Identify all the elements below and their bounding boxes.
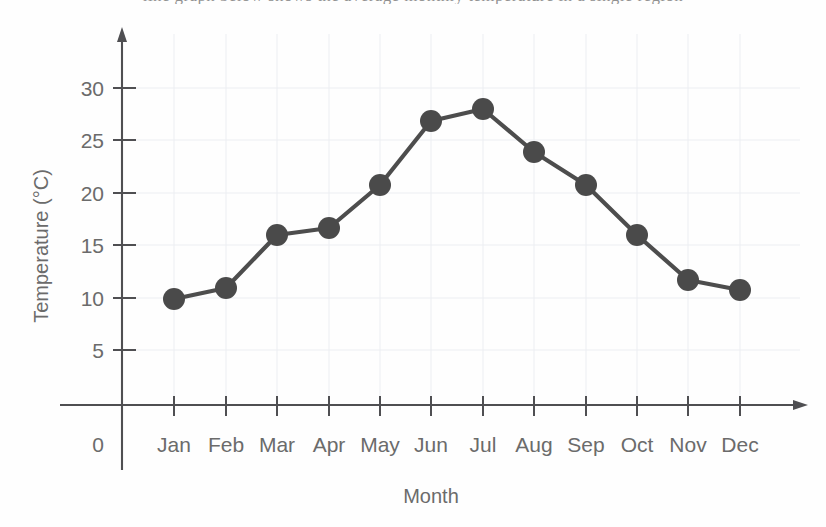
x-tick-label-aug: Aug [515, 433, 552, 456]
data-point-feb[interactable] [215, 277, 237, 299]
horizontal-gridlines [122, 88, 800, 350]
x-tick-label-jul: Jul [470, 433, 497, 456]
line-chart: 30 25 20 15 10 5 0 Jan Feb Mar Apr May J… [0, 0, 826, 527]
y-tick-label-25: 25 [81, 129, 104, 152]
x-axis-title: Month [403, 485, 459, 507]
y-axis-title: Temperature (°C) [30, 169, 52, 323]
x-tick-label-jan: Jan [157, 433, 191, 456]
data-point-may[interactable] [369, 174, 391, 196]
data-point-jul[interactable] [472, 98, 494, 120]
x-tick-label-oct: Oct [621, 433, 654, 456]
x-tick-label-dec: Dec [721, 433, 758, 456]
x-tick-label-apr: Apr [313, 433, 346, 456]
chart-svg: 30 25 20 15 10 5 0 Jan Feb Mar Apr May J… [0, 0, 826, 527]
x-tick-label-mar: Mar [259, 433, 295, 456]
data-point-aug[interactable] [523, 141, 545, 163]
chart-page: line graph below shows the average month… [0, 0, 826, 527]
data-point-dec[interactable] [729, 279, 751, 301]
x-axis-arrow-icon [793, 400, 808, 410]
y-tick-label-30: 30 [81, 77, 104, 100]
y-tick-label-15: 15 [81, 234, 104, 257]
x-tick-label-jun: Jun [414, 433, 448, 456]
x-tick-labels: Jan Feb Mar Apr May Jun Jul Aug Sep Oct … [157, 433, 759, 456]
x-tick-label-sep: Sep [567, 433, 604, 456]
y-tick-label-10: 10 [81, 287, 104, 310]
y-axis-arrow-icon [117, 27, 127, 42]
x-tick-label-may: May [360, 433, 400, 456]
y-axis [117, 27, 127, 470]
vertical-gridlines [174, 34, 740, 405]
y-tick-label-5: 5 [92, 339, 104, 362]
x-tick-label-feb: Feb [208, 433, 244, 456]
x-tick-label-nov: Nov [669, 433, 707, 456]
y-tick-label-0: 0 [92, 433, 104, 456]
data-point-markers [163, 98, 751, 310]
data-point-jun[interactable] [420, 110, 442, 132]
data-point-oct[interactable] [626, 224, 648, 246]
temperature-series-line [174, 109, 740, 299]
y-tick-labels: 30 25 20 15 10 5 0 [81, 77, 104, 456]
y-tick-marks [113, 88, 136, 350]
data-point-sep[interactable] [575, 174, 597, 196]
y-tick-label-20: 20 [81, 182, 104, 205]
data-point-jan[interactable] [163, 288, 185, 310]
data-point-apr[interactable] [318, 217, 340, 239]
data-point-nov[interactable] [677, 269, 699, 291]
data-point-mar[interactable] [266, 224, 288, 246]
x-axis [60, 400, 808, 410]
